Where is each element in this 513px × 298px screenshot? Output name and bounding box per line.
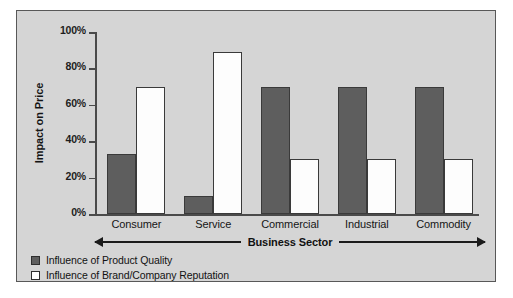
x-axis-title: Business Sector — [241, 236, 340, 248]
axis-arrow-right — [339, 241, 485, 243]
bar-group: Industrial — [338, 32, 396, 214]
legend-swatch — [31, 271, 40, 280]
legend-item: Influence of Product Quality — [31, 253, 229, 267]
y-axis-title: Impact on Price — [31, 32, 47, 214]
x-axis-title-bar: Business Sector — [95, 235, 485, 249]
chart-figure: Impact on Price 0%20%40%60%80%100% Consu… — [16, 10, 496, 282]
y-axis-tick-mark — [89, 68, 95, 70]
x-axis-category-label: Commodity — [415, 218, 473, 230]
left-arrow-icon — [94, 237, 103, 247]
bar — [290, 159, 319, 214]
y-axis-tick-label: 20% — [66, 170, 86, 182]
y-axis-tick-mark — [89, 214, 95, 216]
bar — [136, 87, 165, 214]
y-axis-tick-mark — [89, 32, 95, 34]
bar — [444, 159, 473, 214]
bar — [107, 154, 136, 214]
legend-label: Influence of Product Quality — [46, 254, 172, 266]
x-axis-category-label: Service — [184, 218, 242, 230]
bar-group: Commercial — [261, 32, 319, 214]
chart-legend: Influence of Product QualityInfluence of… — [31, 253, 229, 283]
axis-arrow-left — [95, 241, 241, 243]
y-axis-line — [95, 32, 97, 215]
bar-group: Commodity — [415, 32, 473, 214]
y-axis-tick-mark — [89, 105, 95, 107]
bar-group: Service — [184, 32, 242, 214]
y-axis-tick-label: 100% — [60, 24, 86, 36]
plot-area: 0%20%40%60%80%100% ConsumerServiceCommer… — [95, 32, 479, 214]
x-axis-line — [95, 214, 479, 216]
legend-item: Influence of Brand/Company Reputation — [31, 268, 229, 282]
bar — [261, 87, 290, 214]
bar — [338, 87, 367, 214]
y-axis-tick-mark — [89, 141, 95, 143]
bar — [184, 196, 213, 214]
y-axis-tick-label: 80% — [66, 60, 86, 72]
bar — [367, 159, 396, 214]
bar — [213, 52, 242, 214]
y-axis-tick-label: 40% — [66, 133, 86, 145]
y-axis-tick-mark — [89, 178, 95, 180]
right-arrow-icon — [477, 237, 486, 247]
bar — [415, 87, 444, 214]
y-axis-tick-label: 60% — [66, 97, 86, 109]
x-axis-category-label: Commercial — [261, 218, 319, 230]
legend-swatch — [31, 256, 40, 265]
y-axis-tick-label: 0% — [71, 206, 86, 218]
x-axis-category-label: Consumer — [107, 218, 165, 230]
x-axis-category-label: Industrial — [338, 218, 396, 230]
bar-group: Consumer — [107, 32, 165, 214]
legend-label: Influence of Brand/Company Reputation — [46, 269, 229, 281]
